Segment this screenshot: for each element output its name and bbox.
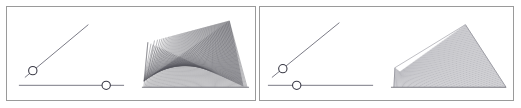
generatrix-line — [395, 68, 396, 87]
right-panel — [259, 6, 514, 101]
generatrix-line — [394, 68, 395, 88]
length-slider-handle[interactable] — [102, 81, 110, 89]
app-root — [0, 0, 521, 108]
generatrix-line — [154, 36, 170, 87]
generatrix-line — [463, 26, 502, 87]
angle-slider-handle[interactable] — [29, 67, 37, 75]
left-panel-canvas[interactable] — [7, 7, 255, 100]
left-envelope-figure — [142, 21, 249, 88]
generatrix-line — [399, 71, 400, 87]
generatrix-line — [145, 40, 155, 87]
length-slider-handle[interactable] — [293, 81, 301, 89]
generatrix-line — [395, 25, 465, 68]
right-fan-figure — [391, 25, 506, 88]
right-controls — [268, 23, 373, 90]
generatrix-line — [145, 48, 161, 80]
right-panel-canvas[interactable] — [260, 7, 513, 100]
angle-slider-handle[interactable] — [279, 65, 287, 73]
left-controls — [19, 25, 124, 90]
left-panel — [6, 6, 256, 101]
